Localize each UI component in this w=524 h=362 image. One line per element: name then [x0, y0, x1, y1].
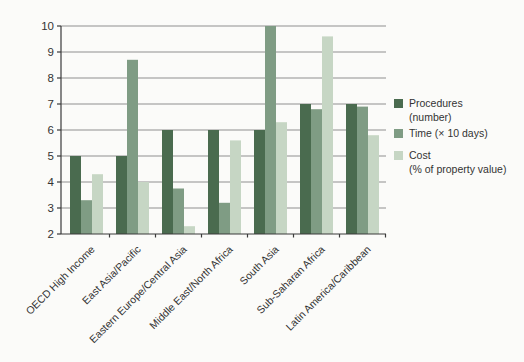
legend-swatch — [394, 151, 403, 160]
legend-label: Time (× 10 days) — [409, 127, 488, 139]
category-label: Middle East/North Africa — [147, 243, 235, 331]
bar — [138, 182, 149, 234]
y-tick-label: 8 — [48, 72, 54, 84]
bar — [265, 26, 276, 234]
y-tick-label: 9 — [48, 46, 54, 58]
bar — [230, 140, 241, 234]
bar — [81, 200, 92, 234]
bar — [311, 109, 322, 234]
y-tick-label: 4 — [48, 176, 55, 188]
bar — [276, 122, 287, 234]
y-tick-label: 5 — [48, 150, 54, 162]
bar-chart: 2345678910OECD High IncomeEast Asia/Paci… — [0, 0, 524, 362]
bar — [254, 130, 265, 234]
figure-page: 2345678910OECD High IncomeEast Asia/Paci… — [0, 0, 524, 362]
bar — [346, 104, 357, 234]
y-tick-label: 7 — [48, 98, 54, 110]
category-label: South Asia — [237, 243, 281, 287]
y-tick-label: 3 — [48, 202, 54, 214]
bar — [219, 203, 230, 234]
legend-label: (number) — [409, 111, 452, 123]
legend-swatch — [394, 99, 403, 108]
legend-label: (% of property value) — [409, 163, 506, 175]
category-label: Eastern Europe/Central Asia — [87, 243, 189, 345]
category-label: Latin America/Caribbean — [283, 243, 373, 333]
bar — [208, 130, 219, 234]
bar — [70, 156, 81, 234]
bar — [162, 130, 173, 234]
bar — [322, 36, 333, 234]
bar — [357, 107, 368, 234]
bar — [127, 60, 138, 234]
bar — [300, 104, 311, 234]
legend-swatch — [394, 129, 403, 138]
bar — [184, 226, 195, 234]
bar — [116, 156, 127, 234]
y-tick-label: 2 — [48, 228, 54, 240]
y-tick-label: 6 — [48, 124, 54, 136]
legend-label: Procedures — [409, 97, 463, 109]
y-tick-label: 10 — [41, 20, 54, 32]
bar — [92, 174, 103, 234]
legend: Procedures(number)Time (× 10 days)Cost(%… — [394, 97, 506, 175]
bar — [368, 135, 379, 234]
bar — [173, 189, 184, 235]
legend-label: Cost — [409, 149, 431, 161]
